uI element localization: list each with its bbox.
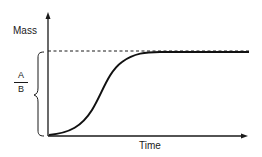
y-axis-label: Mass <box>13 26 37 36</box>
curly-brace <box>34 52 44 136</box>
growth-curve-diagram <box>0 0 262 157</box>
fraction-numerator: A <box>14 70 28 81</box>
x-axis-label: Time <box>139 141 161 151</box>
sigmoid-curve <box>49 52 249 135</box>
x-axis-arrow-icon <box>241 134 248 139</box>
fraction-denominator: B <box>14 84 28 95</box>
y-axis-arrow-icon <box>46 12 51 19</box>
fraction-bar <box>14 82 28 83</box>
fraction-label: A B <box>14 70 28 95</box>
